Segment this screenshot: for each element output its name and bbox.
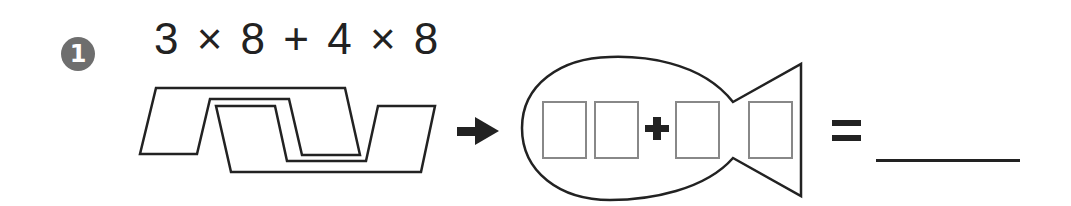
equals-sign-icon <box>832 120 861 141</box>
plus-sign-icon <box>645 117 669 140</box>
right-arrow-icon <box>457 117 499 145</box>
overlapping-shapes-diagram <box>140 88 435 172</box>
answer-box-2 <box>595 102 638 158</box>
answer-box-4 <box>749 102 792 158</box>
answer-line[interactable] <box>876 159 1020 162</box>
worksheet-diagram <box>0 0 1071 206</box>
answer-box-3 <box>676 102 719 158</box>
answer-box-1 <box>543 102 586 158</box>
